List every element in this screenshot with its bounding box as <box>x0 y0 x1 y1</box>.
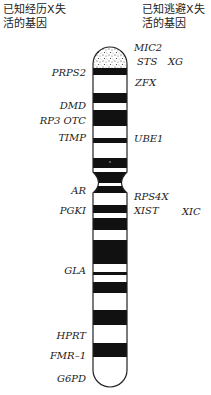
dark-band <box>93 205 127 213</box>
gene-label-sts: STS <box>137 56 157 68</box>
dark-band <box>93 272 127 275</box>
gene-label-xic: XIC <box>182 206 201 218</box>
gene-label-gla: GLA <box>64 265 86 277</box>
gene-label-mic2: MIC2 <box>134 42 162 54</box>
gene-label-hprt: HPRT <box>57 330 86 342</box>
telomere-cap <box>93 47 127 68</box>
gene-label-prps2: PRPS2 <box>52 67 86 79</box>
gene-label-ube1: UBE1 <box>134 133 163 145</box>
dark-band <box>93 68 127 75</box>
dark-band <box>93 110 127 126</box>
gene-label-pgki: PGKI <box>60 205 86 217</box>
gene-label-rps4x: RPS4X <box>134 191 169 203</box>
dark-band <box>93 343 127 357</box>
dark-band <box>93 240 127 264</box>
gene-label-g6pd: G6PD <box>57 373 86 385</box>
gene-label-ar: AR <box>71 185 86 197</box>
dark-band <box>93 218 127 230</box>
dark-band <box>93 282 127 293</box>
gene-label-timp: TIMP <box>58 132 86 144</box>
gene-label-rp3-otc: RP3 OTC <box>40 115 86 127</box>
dark-band <box>93 310 127 325</box>
gene-label-zfx: ZFX <box>135 77 156 89</box>
gene-label-fmr-1: FMR–1 <box>50 350 86 362</box>
gene-label-xist: XIST <box>134 205 159 217</box>
dark-band <box>93 138 127 143</box>
gene-label-dmd: DMD <box>60 100 86 112</box>
gene-label-xg: XG <box>168 56 183 68</box>
dark-band <box>93 93 127 103</box>
